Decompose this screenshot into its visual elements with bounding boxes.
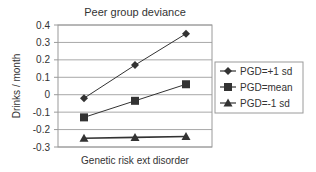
square-marker [182, 80, 190, 88]
series-triangle [80, 132, 191, 142]
legend-label: PGD=mean [240, 82, 293, 93]
y-tick-label: 0.2 [36, 54, 50, 65]
y-tick-label: 0.1 [36, 72, 50, 83]
diamond-marker [131, 61, 139, 69]
y-tick-label: 0 [44, 89, 50, 100]
legend-label: PGD=+1 sd [240, 66, 292, 77]
diamond-marker [80, 94, 88, 102]
y-axis-label: Drinks / month [11, 54, 22, 118]
line-chart: Peer group deviance 0.40.30.20.10-0.1-0.… [0, 0, 316, 172]
y-tick-label: 0.3 [36, 37, 50, 48]
series-diamond [80, 30, 190, 102]
legend-item: PGD=mean [220, 82, 293, 93]
square-marker [80, 113, 88, 121]
diamond-marker [182, 30, 190, 38]
y-tick-label: 0.4 [36, 20, 50, 31]
square-marker [131, 97, 139, 105]
y-axis-ticks: 0.40.30.20.10-0.1-0.2-0.3 [33, 20, 58, 153]
x-axis-label: Genetic risk ext disorder [81, 155, 189, 166]
y-tick-label: -0.3 [33, 142, 51, 153]
legend: PGD=+1 sdPGD=meanPGD=-1 sd [215, 62, 303, 113]
series-square [80, 80, 190, 121]
chart-title: Peer group deviance [84, 6, 186, 18]
square-marker [224, 83, 232, 91]
legend-label: PGD=-1 sd [240, 98, 290, 109]
data-series [80, 30, 191, 142]
y-tick-label: -0.2 [33, 124, 51, 135]
y-tick-label: -0.1 [33, 107, 51, 118]
